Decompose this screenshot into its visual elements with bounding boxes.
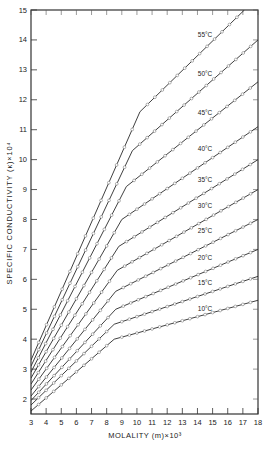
data-point [166, 187, 169, 190]
data-point [37, 378, 40, 381]
data-point [219, 309, 222, 312]
x-tick-label: 3 [29, 418, 33, 427]
data-point [113, 231, 116, 234]
data-point [60, 324, 63, 327]
data-point [98, 351, 101, 354]
data-point [198, 52, 201, 55]
data-point [219, 288, 222, 291]
series-label: 10°C [198, 305, 213, 312]
data-point [76, 252, 79, 255]
data-point [143, 330, 146, 333]
data-point [61, 345, 64, 348]
data-point [131, 260, 134, 263]
data-point [226, 285, 229, 288]
series-label: 35°C [198, 176, 213, 183]
y-tick-label: 7 [23, 245, 27, 254]
data-point [227, 261, 230, 264]
data-point [37, 391, 40, 394]
series-label: 50°C [198, 70, 213, 77]
data-point [158, 308, 161, 311]
data-point [210, 187, 213, 190]
y-tick-label: 5 [23, 305, 27, 314]
data-point [189, 298, 192, 301]
data-point [69, 270, 72, 273]
data-point [249, 251, 252, 254]
data-point [90, 357, 93, 360]
data-point [143, 203, 146, 206]
data-point [146, 136, 149, 139]
data-point [164, 216, 167, 219]
data-point [181, 300, 184, 303]
data-point [233, 173, 236, 176]
data-point [242, 226, 245, 229]
data-point [146, 103, 149, 106]
data-point [197, 248, 200, 251]
data-point [128, 318, 131, 321]
series-line [31, 10, 244, 360]
data-point [123, 166, 126, 169]
data-point [220, 71, 223, 74]
x-tick-label: 13 [178, 418, 186, 427]
data-point [69, 334, 72, 337]
y-tick-label: 6 [23, 275, 27, 284]
data-point [228, 23, 231, 26]
data-point [44, 360, 47, 363]
data-point [144, 295, 147, 298]
data-point [196, 315, 199, 318]
data-point [92, 232, 95, 235]
data-point [123, 265, 126, 268]
data-point [45, 332, 48, 335]
data-point [249, 45, 252, 48]
data-point [241, 93, 244, 96]
data-point [115, 164, 118, 167]
data-point [91, 333, 94, 336]
x-tick-label: 16 [224, 418, 232, 427]
series-label: 55°C [198, 31, 213, 38]
data-point [160, 243, 163, 246]
data-point [195, 197, 198, 200]
x-tick-label: 9 [120, 418, 124, 427]
data-point [67, 377, 70, 380]
data-point [249, 301, 252, 304]
data-point [171, 148, 174, 151]
data-point [73, 314, 76, 317]
data-point [226, 178, 229, 181]
data-point [181, 177, 184, 180]
data-point [159, 289, 162, 292]
data-point [37, 403, 40, 406]
data-point [107, 181, 110, 184]
data-point [151, 328, 154, 331]
data-point [37, 363, 40, 366]
data-point [98, 258, 101, 261]
data-point [220, 209, 223, 212]
data-point [204, 161, 207, 164]
data-point [66, 325, 69, 328]
data-point [204, 245, 207, 248]
data-point [83, 364, 86, 367]
data-point [100, 216, 103, 219]
data-point [219, 151, 222, 154]
data-point [99, 309, 102, 312]
data-point [59, 314, 62, 317]
data-point [105, 344, 108, 347]
data-point [148, 226, 151, 229]
data-point [110, 214, 113, 217]
x-tick-label: 6 [74, 418, 78, 427]
data-point [205, 84, 208, 87]
data-point [37, 385, 40, 388]
data-point [190, 226, 193, 229]
data-point [118, 199, 121, 202]
data-point [249, 130, 252, 133]
data-point [164, 154, 167, 157]
data-point [156, 221, 159, 224]
data-point [60, 374, 63, 377]
data-point [137, 298, 140, 301]
data-point [204, 293, 207, 296]
data-point [136, 315, 139, 318]
data-point [175, 235, 178, 238]
data-point [151, 310, 154, 313]
data-point [90, 345, 93, 348]
data-point [123, 146, 126, 149]
data-point [105, 245, 108, 248]
data-point [234, 257, 237, 260]
